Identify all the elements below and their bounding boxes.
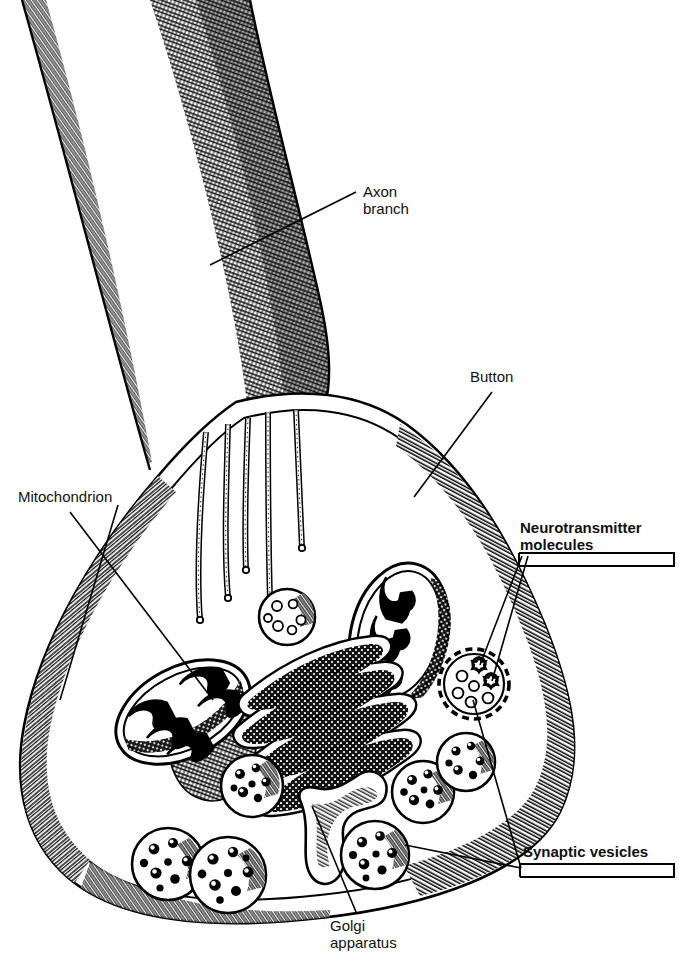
synaptic-vesicle [190, 837, 266, 913]
synapse-illustration: Axon branch Button Mitochondrion Neurotr… [0, 0, 679, 969]
synaptic-vesicle [341, 821, 409, 889]
illustration-canvas [0, 0, 679, 969]
label-neurotransmitter-molecules: Neurotransmitter molecules [520, 519, 642, 553]
label-golgi-apparatus: Golgi apparatus [330, 917, 397, 951]
label-synaptic-vesicles: Synaptic vesicles [523, 843, 648, 860]
synaptic-vesicle [221, 755, 283, 817]
label-mitochondrion: Mitochondrion [18, 488, 112, 505]
synaptic-vesicle [437, 733, 495, 791]
label-button: Button [470, 368, 513, 385]
label-axon-branch: Axon branch [363, 183, 409, 217]
nt-label-rule [519, 553, 674, 566]
synaptic-vesicle [259, 589, 315, 645]
sv-label-rule [520, 864, 674, 877]
